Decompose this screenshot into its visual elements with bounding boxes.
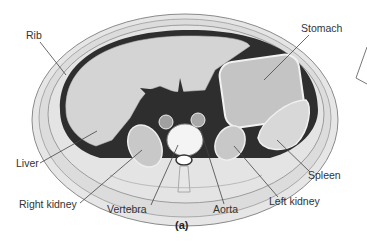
rib-label: Rib	[26, 30, 42, 41]
spinal-canal-shape	[176, 155, 192, 165]
vertebra-body-shape	[167, 124, 203, 156]
vena-cava-shape	[159, 115, 173, 129]
stomach-label: Stomach	[301, 23, 342, 34]
right-kidney-label: Right kidney	[19, 199, 77, 210]
cross-section-figure: Rib Stomach Liver Spleen Right kidney Ve…	[0, 0, 367, 243]
adjacent-figure-fragment	[356, 47, 367, 84]
aorta-label: Aorta	[213, 204, 238, 215]
liver-label: Liver	[16, 158, 39, 169]
aorta-shape	[191, 113, 205, 127]
left-kidney-label: Left kidney	[269, 196, 320, 207]
panel-label: (a)	[175, 220, 188, 231]
vertebra-label: Vertebra	[107, 204, 147, 215]
spleen-label: Spleen	[308, 170, 341, 181]
